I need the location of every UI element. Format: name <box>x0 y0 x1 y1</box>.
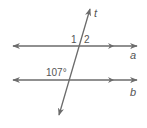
angle-1-label: 1 <box>71 34 77 45</box>
line-b <box>13 77 137 83</box>
label-t: t <box>94 7 98 19</box>
diagram-canvas: t a b 1 2 107° <box>0 0 147 128</box>
label-a: a <box>130 49 136 61</box>
angle-2-label: 2 <box>84 34 90 45</box>
line-t <box>59 9 90 115</box>
label-b: b <box>130 86 136 98</box>
angle-107-label: 107° <box>46 67 67 78</box>
